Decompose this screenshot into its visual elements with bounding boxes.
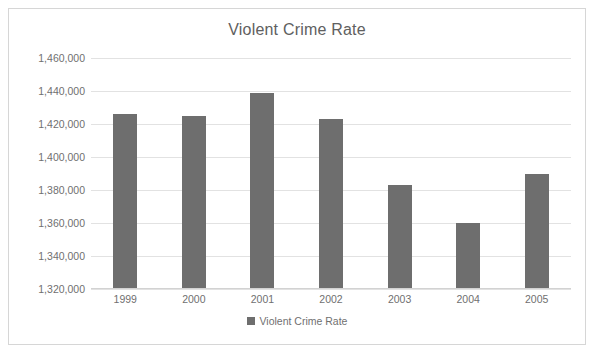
bars-series bbox=[91, 58, 571, 289]
chart-legend: Violent Crime Rate bbox=[9, 315, 585, 327]
bar[interactable] bbox=[182, 116, 206, 289]
y-axis: 1,320,0001,340,0001,360,0001,380,0001,40… bbox=[9, 58, 85, 289]
gridline bbox=[91, 289, 571, 290]
y-tick-label: 1,440,000 bbox=[13, 85, 85, 97]
x-axis-line bbox=[91, 288, 571, 289]
x-axis: 1999200020012002200320042005 bbox=[91, 293, 571, 311]
y-tick-label: 1,420,000 bbox=[13, 118, 85, 130]
bar-slot bbox=[160, 58, 229, 289]
bar-slot bbox=[365, 58, 434, 289]
bar[interactable] bbox=[319, 119, 343, 289]
bar-slot bbox=[434, 58, 503, 289]
bar[interactable] bbox=[388, 185, 412, 289]
x-tick-label: 2002 bbox=[319, 293, 342, 305]
bar[interactable] bbox=[250, 93, 274, 289]
y-tick-label: 1,380,000 bbox=[13, 184, 85, 196]
legend-swatch-icon bbox=[247, 317, 255, 325]
y-tick-label: 1,360,000 bbox=[13, 217, 85, 229]
x-tick-label: 2001 bbox=[251, 293, 274, 305]
bar-slot bbox=[297, 58, 366, 289]
y-tick-label: 1,340,000 bbox=[13, 250, 85, 262]
x-tick-label: 2004 bbox=[456, 293, 479, 305]
x-tick-label: 1999 bbox=[114, 293, 137, 305]
x-tick-label: 2000 bbox=[182, 293, 205, 305]
y-tick-label: 1,460,000 bbox=[13, 52, 85, 64]
bar[interactable] bbox=[113, 114, 137, 289]
chart-container: Violent Crime Rate 1,320,0001,340,0001,3… bbox=[8, 8, 586, 345]
bar-slot bbox=[228, 58, 297, 289]
y-tick-label: 1,400,000 bbox=[13, 151, 85, 163]
plot-area bbox=[91, 58, 571, 289]
y-tick-label: 1,320,000 bbox=[13, 283, 85, 295]
bar[interactable] bbox=[525, 174, 549, 290]
bar-slot bbox=[502, 58, 571, 289]
bar-slot bbox=[91, 58, 160, 289]
bar[interactable] bbox=[456, 223, 480, 289]
legend-item-label: Violent Crime Rate bbox=[260, 315, 348, 327]
x-tick-label: 2005 bbox=[525, 293, 548, 305]
x-tick-label: 2003 bbox=[388, 293, 411, 305]
chart-title: Violent Crime Rate bbox=[9, 21, 585, 39]
